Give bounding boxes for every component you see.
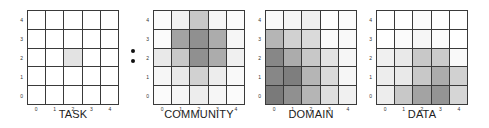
grid-cell [377, 11, 395, 30]
grid-cell [450, 11, 468, 30]
separator-bullet-icon [131, 59, 135, 63]
grid-cell [413, 67, 431, 86]
heatmap-grid [376, 10, 468, 105]
grid-cell [377, 67, 395, 86]
grid-cell [377, 49, 395, 68]
grid-cell [395, 67, 413, 86]
y-tick-label: 2 [364, 55, 372, 61]
grid-cell [395, 30, 413, 49]
grid-cell [413, 11, 431, 30]
grid-cell [450, 49, 468, 68]
grid-cell [377, 30, 395, 49]
y-tick-label: 0 [364, 93, 372, 99]
y-tick-label: 3 [364, 36, 372, 42]
grid-cell [413, 30, 431, 49]
separator-bullet-icon [131, 49, 135, 53]
grid-cell [432, 11, 450, 30]
grid-cell [450, 67, 468, 86]
grid-cell [377, 86, 395, 105]
grid-cell [432, 49, 450, 68]
grid-cell [432, 30, 450, 49]
grid-cell [395, 86, 413, 105]
grid-cell [432, 67, 450, 86]
y-tick-label: 4 [364, 17, 372, 23]
panel-data: 0123401234DATA [0, 0, 489, 128]
grid-cell [432, 86, 450, 105]
grid-cell [395, 11, 413, 30]
grid-cell [413, 86, 431, 105]
grid-cell [395, 49, 413, 68]
grid-cell [413, 49, 431, 68]
panel-title: DATA [376, 108, 468, 120]
y-tick-label: 1 [364, 74, 372, 80]
grid-cell [450, 86, 468, 105]
grid-cell [450, 30, 468, 49]
